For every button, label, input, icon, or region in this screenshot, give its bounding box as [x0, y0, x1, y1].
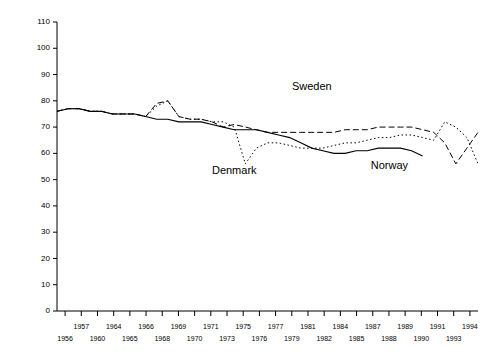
- y-axis-tick-label: 70: [41, 122, 50, 131]
- x-axis-tick-label: 1960: [90, 335, 106, 342]
- line-chart: 0102030405060708090100110195619571960196…: [0, 0, 486, 360]
- x-axis-tick-label: 1988: [381, 335, 397, 342]
- x-axis-tick-label: 1994: [462, 323, 478, 330]
- series-label-norway: Norway: [371, 159, 409, 171]
- x-axis-tick-label: 1985: [349, 335, 365, 342]
- chart-canvas: 0102030405060708090100110195619571960196…: [0, 0, 486, 360]
- x-axis-tick-label: 1990: [414, 335, 430, 342]
- y-axis-tick-label: 40: [41, 201, 50, 210]
- series-line-norway: [57, 109, 423, 156]
- x-axis-tick-label: 1966: [138, 323, 154, 330]
- x-axis-tick-label: 1989: [397, 323, 413, 330]
- y-axis-tick-label: 100: [37, 43, 51, 52]
- y-axis-tick-label: 80: [41, 96, 50, 105]
- x-axis-tick-label: 1975: [235, 323, 251, 330]
- y-axis-tick-label: 0: [46, 306, 51, 315]
- x-axis-tick-label: 1991: [430, 323, 446, 330]
- y-axis-tick-label: 10: [41, 280, 50, 289]
- x-axis-tick-label: 1987: [365, 323, 381, 330]
- x-axis-tick-label: 1984: [333, 323, 349, 330]
- y-axis-tick-label: 60: [41, 148, 50, 157]
- x-axis-tick-label: 1969: [171, 323, 187, 330]
- x-axis-tick-label: 1956: [57, 335, 73, 342]
- y-axis-tick-label: 20: [41, 254, 50, 263]
- series-label-sweden: Sweden: [292, 80, 332, 92]
- x-axis-tick-label: 1981: [300, 323, 316, 330]
- x-axis-tick-label: 1976: [252, 335, 268, 342]
- y-axis-tick-label: 110: [37, 17, 50, 26]
- y-axis-tick-label: 90: [41, 70, 50, 79]
- x-axis-tick-label: 1977: [268, 323, 284, 330]
- x-axis-tick-label: 1971: [203, 323, 219, 330]
- y-axis-tick-label: 50: [41, 175, 50, 184]
- x-axis-tick-label: 1970: [187, 335, 203, 342]
- series-label-denmark: Denmark: [212, 164, 257, 176]
- x-axis-tick-label: 1965: [122, 335, 138, 342]
- x-axis-tick-label: 1982: [316, 335, 332, 342]
- x-axis-tick-label: 1964: [106, 323, 122, 330]
- x-axis-tick-label: 1968: [154, 335, 170, 342]
- x-axis-tick-label: 1957: [73, 323, 89, 330]
- y-axis-tick-label: 30: [41, 227, 50, 236]
- x-axis-tick-label: 1993: [446, 335, 462, 342]
- x-axis-tick-label: 1979: [284, 335, 300, 342]
- x-axis-tick-label: 1973: [219, 335, 235, 342]
